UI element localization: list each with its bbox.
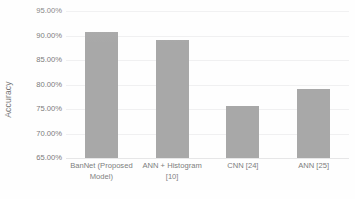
y-axis-tick-label: 90.00%	[18, 32, 62, 40]
bar[interactable]	[85, 32, 118, 158]
x-axis-category-label: ANN + Histogram [10]	[139, 161, 206, 182]
x-axis-category-labels: BanNet (Proposed Model)ANN + Histogram […	[66, 161, 349, 199]
plot-area	[66, 11, 349, 158]
y-axis-tick-label: 65.00%	[18, 154, 62, 162]
x-axis-category-label: ANN [25]	[280, 161, 347, 172]
bar[interactable]	[297, 89, 330, 158]
y-axis-tick-label: 80.00%	[18, 81, 62, 89]
y-axis-title: Accuracy	[0, 0, 16, 199]
y-axis-tick-label: 95.00%	[18, 7, 62, 15]
y-axis-tick-label: 75.00%	[18, 105, 62, 113]
y-axis-tick-label: 70.00%	[18, 130, 62, 138]
bar-series	[66, 11, 349, 158]
x-axis-category-label: CNN [24]	[210, 161, 277, 172]
y-axis-tick-labels: 95.00%90.00%85.00%80.00%75.00%70.00%65.0…	[18, 0, 62, 199]
bar[interactable]	[226, 106, 259, 158]
gridline	[66, 158, 349, 159]
bar[interactable]	[156, 40, 189, 158]
y-axis-tick-label: 85.00%	[18, 56, 62, 64]
bar-chart-figure: Accuracy 95.00%90.00%85.00%80.00%75.00%7…	[0, 0, 355, 199]
x-axis-category-label: BanNet (Proposed Model)	[68, 161, 135, 182]
